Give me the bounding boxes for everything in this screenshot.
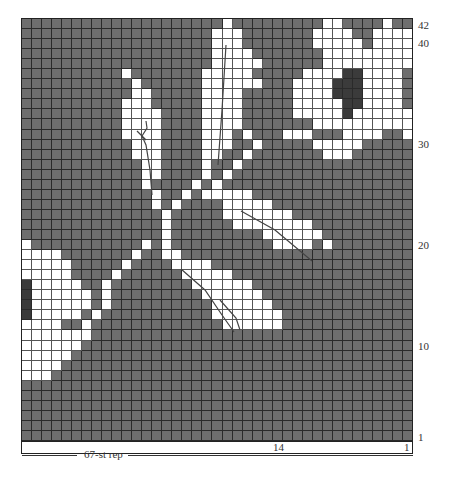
- chart-cell: [283, 310, 293, 320]
- chart-cell: [182, 290, 192, 300]
- chart-cell: [363, 270, 373, 280]
- chart-cell: [112, 401, 122, 411]
- chart-cell: [353, 79, 363, 89]
- chart-cell: [92, 119, 102, 129]
- chart-cell: [132, 180, 142, 190]
- chart-cell: [212, 290, 222, 300]
- chart-cell: [363, 310, 373, 320]
- chart-cell: [62, 431, 72, 441]
- chart-cell: [62, 220, 72, 230]
- chart-cell: [122, 351, 132, 361]
- chart-cell: [92, 250, 102, 260]
- chart-cell: [92, 109, 102, 119]
- chart-cell: [152, 39, 162, 49]
- chart-cell: [102, 99, 112, 109]
- chart-cell: [393, 19, 403, 29]
- chart-cell: [22, 150, 32, 160]
- chart-cell: [82, 351, 92, 361]
- chart-cell: [233, 130, 243, 140]
- chart-cell: [172, 170, 182, 180]
- chart-cell: [333, 79, 343, 89]
- chart-cell: [202, 421, 212, 431]
- chart-cell: [263, 260, 273, 270]
- chart-cell: [52, 310, 62, 320]
- chart-cell: [273, 310, 283, 320]
- chart-cell: [112, 180, 122, 190]
- chart-cell: [162, 210, 172, 220]
- chart-cell: [72, 69, 82, 79]
- chart-cell: [363, 69, 373, 79]
- chart-cell: [243, 69, 253, 79]
- chart-cell: [223, 150, 233, 160]
- chart-cell: [202, 391, 212, 401]
- chart-cell: [122, 29, 132, 39]
- chart-cell: [333, 59, 343, 69]
- chart-cell: [263, 49, 273, 59]
- chart-cell: [243, 310, 253, 320]
- chart-cell: [142, 421, 152, 431]
- chart-cell: [72, 411, 82, 421]
- chart-cell: [192, 160, 202, 170]
- chart-cell: [52, 49, 62, 59]
- chart-cell: [212, 190, 222, 200]
- chart-cell: [323, 401, 333, 411]
- chart-cell: [52, 210, 62, 220]
- chart-cell: [112, 140, 122, 150]
- chart-cell: [393, 351, 403, 361]
- chart-cell: [273, 361, 283, 371]
- chart-cell: [112, 320, 122, 330]
- chart-cell: [212, 361, 222, 371]
- chart-cell: [323, 250, 333, 260]
- chart-cell: [182, 230, 192, 240]
- chart-cell: [233, 69, 243, 79]
- chart-cell: [192, 300, 202, 310]
- chart-cell: [112, 150, 122, 160]
- chart-cell: [212, 99, 222, 109]
- chart-cell: [343, 361, 353, 371]
- chart-cell: [293, 310, 303, 320]
- chart-cell: [32, 19, 42, 29]
- chart-cell: [253, 170, 263, 180]
- chart-cell: [172, 119, 182, 129]
- chart-cell: [82, 19, 92, 29]
- chart-cell: [303, 109, 313, 119]
- chart-cell: [403, 351, 413, 361]
- chart-cell: [42, 59, 52, 69]
- chart-cell: [92, 19, 102, 29]
- chart-cell: [273, 59, 283, 69]
- chart-cell: [313, 341, 323, 351]
- chart-cell: [82, 341, 92, 351]
- chart-cell: [313, 170, 323, 180]
- chart-cell: [293, 49, 303, 59]
- chart-cell: [182, 320, 192, 330]
- chart-cell: [202, 29, 212, 39]
- chart-cell: [192, 130, 202, 140]
- chart-cell: [363, 89, 373, 99]
- chart-cell: [52, 69, 62, 79]
- chart-cell: [243, 401, 253, 411]
- chart-cell: [313, 49, 323, 59]
- chart-cell: [152, 401, 162, 411]
- chart-cell: [283, 411, 293, 421]
- chart-cell: [303, 220, 313, 230]
- chart-cell: [192, 190, 202, 200]
- chart-cell: [52, 270, 62, 280]
- chart-cell: [253, 180, 263, 190]
- chart-cell: [42, 210, 52, 220]
- chart-cell: [333, 240, 343, 250]
- chart-cell: [303, 119, 313, 129]
- chart-cell: [152, 220, 162, 230]
- chart-cell: [152, 79, 162, 89]
- chart-cell: [233, 431, 243, 441]
- chart-cell: [333, 130, 343, 140]
- chart-cell: [132, 280, 142, 290]
- chart-cell: [212, 220, 222, 230]
- chart-cell: [343, 371, 353, 381]
- chart-cell: [142, 310, 152, 320]
- chart-cell: [353, 341, 363, 351]
- chart-cell: [132, 150, 142, 160]
- chart-cell: [172, 391, 182, 401]
- chart-cell: [92, 361, 102, 371]
- chart-cell: [212, 270, 222, 280]
- chart-cell: [132, 361, 142, 371]
